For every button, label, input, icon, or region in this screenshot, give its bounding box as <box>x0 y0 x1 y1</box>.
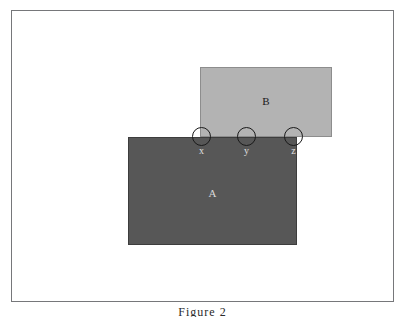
rectangle-b-label: B <box>201 96 331 107</box>
figure-caption: Figure 2 <box>0 306 405 317</box>
rectangle-a-label: A <box>129 188 296 199</box>
rectangle-b: B <box>200 67 332 137</box>
node-x: x <box>192 127 211 146</box>
figure-canvas: B A x y z <box>12 11 395 303</box>
node-y-label: y <box>227 146 266 156</box>
node-z: z <box>284 127 303 146</box>
circle-icon-y <box>237 127 256 146</box>
figure-container: B A x y z Figure 2 <box>0 0 405 317</box>
node-y: y <box>237 127 256 146</box>
node-x-label: x <box>182 146 221 156</box>
circle-icon-z <box>284 127 303 146</box>
node-z-label: z <box>274 146 313 156</box>
figure-frame-border: B A x y z <box>11 10 394 302</box>
circle-icon-x <box>192 127 211 146</box>
